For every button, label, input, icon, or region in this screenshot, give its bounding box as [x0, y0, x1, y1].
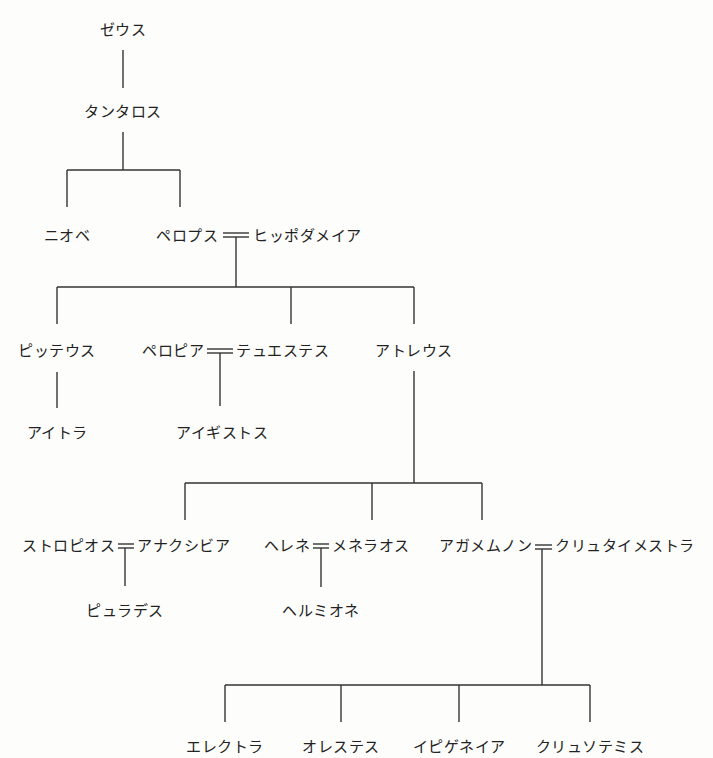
person-chrysothemis: クリュソテミス	[536, 738, 645, 756]
person-hippodamia: ヒッポダメイア	[253, 227, 362, 245]
person-atreus: アトレウス	[375, 342, 453, 360]
person-electra: エレクトラ	[186, 738, 264, 756]
person-menelaus: メネラオス	[332, 537, 410, 555]
person-hermione: ヘルミオネ	[282, 602, 360, 620]
person-anaxibia: アナクシビア	[137, 537, 230, 555]
person-pylades: ピュラデス	[86, 602, 164, 620]
person-clytemnestra: クリュタイメストラ	[555, 537, 695, 555]
person-niobe: ニオベ	[44, 227, 91, 245]
person-iphigenia: イピゲネイア	[413, 738, 506, 756]
person-pittheus: ピッテウス	[18, 342, 96, 360]
person-helen: ヘレネ	[264, 537, 311, 555]
family-tree-diagram: ゼウス タンタロス ニオベ ペロプス ヒッポダメイア ピッテウス ペロピア テュ…	[0, 0, 713, 758]
person-strophius: ストロピオス	[22, 537, 115, 555]
person-agamemnon: アガメムノン	[439, 537, 532, 555]
person-aegisthus: アイギストス	[176, 424, 268, 442]
person-thyestes: テュエステス	[236, 342, 329, 360]
person-zeus: ゼウス	[100, 21, 147, 39]
person-aethra: アイトラ	[27, 424, 88, 442]
person-pelops: ペロプス	[156, 227, 218, 245]
person-orestes: オレステス	[302, 738, 380, 756]
person-tantalus: タンタロス	[84, 103, 162, 121]
person-pelopia: ペロピア	[142, 342, 204, 360]
